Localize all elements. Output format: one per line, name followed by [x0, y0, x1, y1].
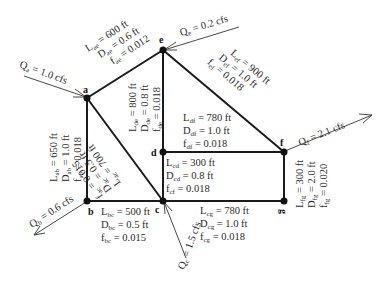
svg-text:fbc = 0.015: fbc = 0.015	[101, 232, 146, 245]
flow-label-b: Qb = 0.6 cfs	[27, 193, 76, 231]
pipe-label-df: Ldf = 780 ft Ddf = 1.0 ft fdf = 0.018	[183, 112, 231, 151]
pipe-label-ef: Lef = 900 ft Def = 1.0 ft fef = 0.018	[204, 39, 272, 104]
pipe-network-diagram: a e b c d f g Qa = 1.0 cfs Qe = 0.2 cfs …	[0, 0, 391, 290]
flow-label-e: Qe = 0.2 cfs	[178, 13, 229, 40]
pipe-label-de: Lde = 800 ft Dde = 0.8 ft fde = 0.018	[127, 83, 164, 132]
node-a	[84, 95, 91, 102]
node-label-b: b	[88, 206, 94, 217]
flow-label-f: Qf = 2.1 cfs	[297, 119, 347, 149]
svg-text:fdf = 0.018: fdf = 0.018	[183, 138, 227, 151]
svg-text:Dbc = 0.5 ft: Dbc = 0.5 ft	[101, 219, 149, 232]
node-label-a: a	[83, 84, 88, 95]
node-label-e: e	[159, 34, 164, 45]
pipe-label-ae: Lae = 600 ft Dae = 0.6 ft fae = 0.012	[83, 13, 152, 76]
svg-text:Ddf = 1.0 ft: Ddf = 1.0 ft	[183, 125, 230, 138]
svg-text:Dcd = 0.8 ft: Dcd = 0.8 ft	[166, 170, 214, 183]
node-label-f: f	[280, 137, 284, 148]
node-e	[160, 47, 167, 54]
flow-label-a: Qa = 1.0 cfs	[18, 59, 69, 88]
svg-text:fcf = 0.018: fcf = 0.018	[166, 183, 210, 196]
svg-text:fcg = 0.018: fcg = 0.018	[200, 231, 245, 244]
node-d	[160, 149, 167, 156]
pipe-label-cd: Lcd = 300 ft Dcd = 0.8 ft fcf = 0.018	[166, 157, 215, 196]
node-f	[281, 149, 288, 156]
pipe-label-cg: Lcg = 780 ft Dcg = 1.0 ft fcg = 0.018	[200, 205, 249, 244]
svg-text:Dcg = 1.0 ft: Dcg = 1.0 ft	[200, 218, 248, 231]
node-g	[281, 198, 288, 205]
pipe-label-bc: Lbc = 500 ft Dbc = 0.5 ft fbc = 0.015	[101, 206, 150, 245]
svg-text:ffg = 0.020: ffg = 0.020	[318, 164, 331, 208]
svg-text:Ldf = 780 ft: Ldf = 780 ft	[183, 112, 231, 125]
node-c	[160, 198, 167, 205]
node-label-d: d	[151, 147, 157, 158]
svg-text:Lbc = 500 ft: Lbc = 500 ft	[101, 206, 150, 219]
node-label-c: c	[155, 204, 160, 215]
node-b	[84, 198, 91, 205]
svg-text:Lcd = 300 ft: Lcd = 300 ft	[166, 157, 215, 170]
pipe-label-fg: Lfg = 300 ft Dfg = 2.0 ft ffg = 0.020	[294, 160, 331, 208]
node-label-g: g	[278, 209, 289, 214]
svg-text:Lcg = 780 ft: Lcg = 780 ft	[200, 205, 249, 218]
